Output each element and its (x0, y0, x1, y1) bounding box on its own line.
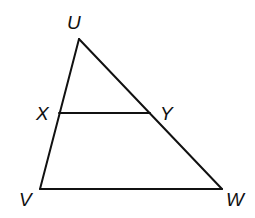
triangle-diagram: U X Y V W (0, 0, 255, 218)
vertex-label-u: U (67, 12, 81, 33)
vertex-label-w: W (226, 189, 246, 210)
vertex-label-v: V (19, 189, 34, 210)
vertex-label-y: Y (160, 103, 174, 124)
vertex-label-x: X (35, 103, 50, 124)
